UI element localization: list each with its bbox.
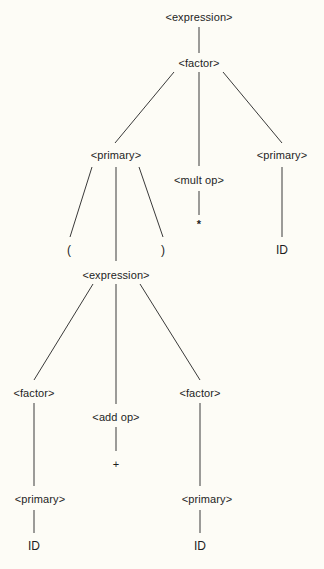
node-inner-expression: <expression>: [82, 269, 149, 282]
terminal-lparen: (: [67, 244, 71, 257]
terminal-id-bottom-left: ID: [28, 540, 40, 553]
terminal-plus: +: [113, 458, 120, 471]
node-primary-right: <primary>: [257, 149, 307, 162]
terminal-star: *: [197, 218, 201, 231]
node-root-expression: <expression>: [165, 11, 232, 24]
node-factor: <factor>: [178, 57, 219, 70]
edge-primary-rparen: [139, 167, 163, 237]
node-primary-bottom-left: <primary>: [15, 493, 65, 506]
node-primary-bottom-right: <primary>: [182, 493, 232, 506]
edge-factor-primary-left: [115, 72, 174, 143]
node-factor-right: <factor>: [179, 387, 220, 400]
terminal-id-right: ID: [276, 244, 288, 257]
node-mult-op: <mult op>: [174, 174, 224, 187]
edge-expression-factor-left: [34, 284, 93, 380]
edge-expression-factor-right: [140, 284, 200, 380]
edge-factor-primary-right: [223, 72, 282, 143]
terminal-id-bottom-right: ID: [194, 540, 206, 553]
node-factor-left: <factor>: [13, 387, 54, 400]
terminal-rparen: ): [161, 244, 165, 257]
parse-tree-edges: [0, 0, 324, 569]
node-add-op: <add op>: [92, 411, 139, 424]
edge-primary-lparen: [70, 167, 92, 237]
node-primary-left: <primary>: [91, 149, 141, 162]
